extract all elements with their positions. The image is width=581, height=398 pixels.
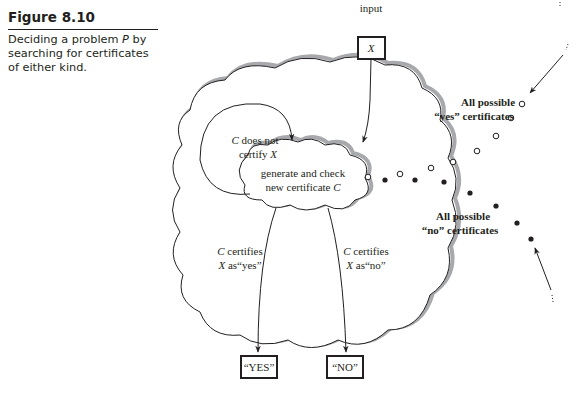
no-set-continuation-dots (552, 295, 553, 302)
generator-label-line1: generate and check (261, 167, 346, 179)
yes-branch-label-line1: C certifies (217, 245, 263, 257)
yes-set-arrow (530, 55, 563, 93)
loop-label-line1: C does not (231, 134, 278, 146)
yes-output-label: “YES” (244, 361, 275, 373)
no-branch-label-line2: X as“no” (345, 259, 386, 271)
generator-label-line2: new certificate C (265, 181, 341, 193)
no-output-label: “NO” (332, 361, 358, 373)
yes-set-continuation-dots (566, 44, 568, 50)
no-set-arrow (535, 248, 551, 290)
yes-set-label-line2: “yes” certificates (434, 110, 514, 122)
yes-set-label-line1: All possible (461, 96, 515, 108)
no-set-label-line1: All possible (436, 210, 490, 222)
certificate-search-diagram: input X C does not certify X generate an… (0, 0, 581, 398)
no-set-label-line2: “no” certificates (422, 224, 499, 236)
input-label: input (360, 2, 383, 14)
yes-branch-label-line2: X as“yes” (217, 259, 261, 271)
loop-label-line2: certify X (239, 148, 278, 160)
no-branch-label-line1: C certifies (343, 245, 389, 257)
input-variable: X (367, 42, 376, 54)
